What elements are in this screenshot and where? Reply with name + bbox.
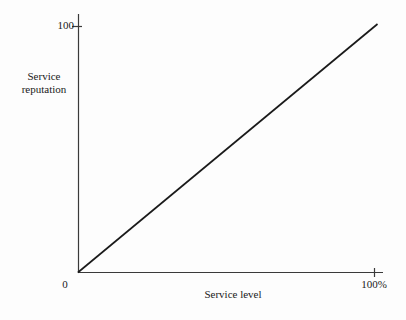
y-axis-label-line-2: reputation (8, 83, 80, 96)
chart-figure: 100 Service reputation 0 100% Service le… (0, 0, 406, 320)
y-axis-tick-label-100: 100 (44, 19, 74, 32)
y-axis-label-line-1: Service (8, 70, 80, 83)
x-axis-label: Service level (170, 288, 296, 301)
plot-area (0, 0, 406, 320)
y-axis-label: Service reputation (8, 70, 80, 96)
x-axis-tick-label-0: 0 (56, 278, 74, 291)
x-axis-tick-label-100pct: 100% (352, 278, 396, 291)
